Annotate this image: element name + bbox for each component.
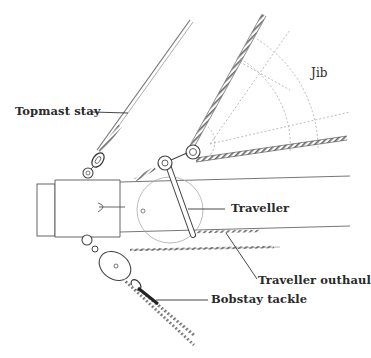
jib-sail: [186, 14, 350, 162]
traveller-outhaul: [130, 231, 280, 250]
bobstay-tackle: [94, 246, 195, 345]
label-traveller: Traveller: [231, 201, 289, 215]
traveller: [135, 153, 193, 235]
bowsprit-spar: [37, 168, 350, 252]
label-jib: Jib: [311, 66, 328, 80]
label-traveller-outhaul: Traveller outhaul: [258, 273, 371, 287]
label-bobstay-tackle: Bobstay tackle: [211, 292, 307, 306]
leader-traveller-outhaul: [226, 233, 257, 279]
topmast-stay: [88, 20, 193, 172]
label-topmast-stay: Topmast stay: [15, 104, 100, 118]
